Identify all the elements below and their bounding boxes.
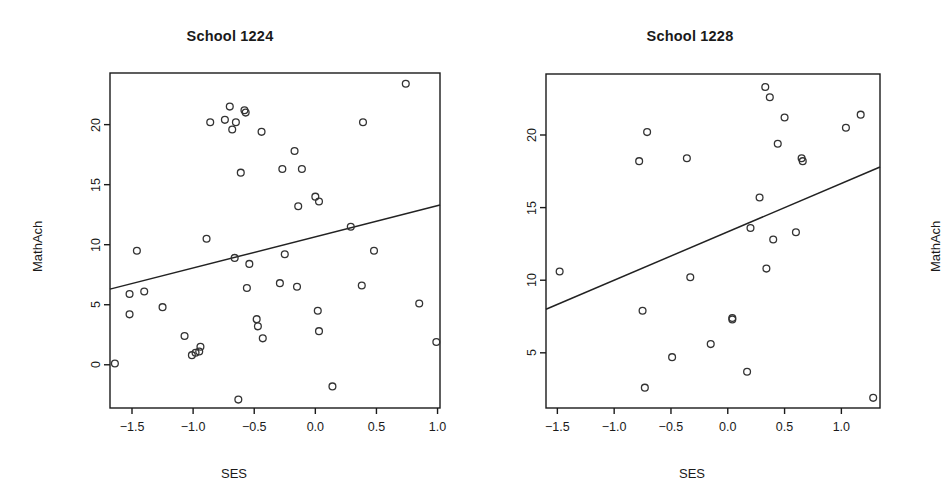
x-tick-label: 1.0 — [415, 420, 461, 434]
y-tick-label: 15 — [525, 201, 539, 215]
y-axis-label-left: MathAch — [30, 221, 45, 272]
x-axis-label-left: SES — [4, 466, 464, 481]
panel-school-1228: School 1228 SES MathAch −1.5−1.0−0.50.00… — [460, 0, 920, 499]
x-tick-label: 0.0 — [705, 420, 751, 434]
x-tick-label: −0.5 — [231, 420, 277, 434]
x-tick-label: 0.5 — [762, 420, 808, 434]
panel-school-1224: School 1224 SES MathAch −1.5−1.0−0.50.00… — [0, 0, 460, 499]
x-tick-label: −1.5 — [534, 420, 580, 434]
y-tick-label: 10 — [525, 274, 539, 288]
y-tick-label: 15 — [89, 178, 103, 192]
x-tick-label: −0.5 — [648, 420, 694, 434]
y-tick-label: 5 — [525, 349, 539, 356]
y-tick-label: 0 — [89, 361, 103, 368]
x-tick-label: −1.0 — [170, 420, 216, 434]
x-tick-label: 0.5 — [353, 420, 399, 434]
y-axis-label-right: MathAch — [928, 221, 943, 272]
x-tick-label: −1.5 — [109, 420, 155, 434]
y-tick-label: 20 — [525, 128, 539, 142]
x-tick-label: 1.0 — [818, 420, 864, 434]
y-tick-label: 20 — [89, 118, 103, 132]
x-tick-label: −1.0 — [591, 420, 637, 434]
x-tick-label: 0.0 — [292, 420, 338, 434]
x-axis-label-right: SES — [462, 466, 922, 481]
y-tick-label: 10 — [89, 238, 103, 252]
y-tick-label: 5 — [89, 301, 103, 308]
